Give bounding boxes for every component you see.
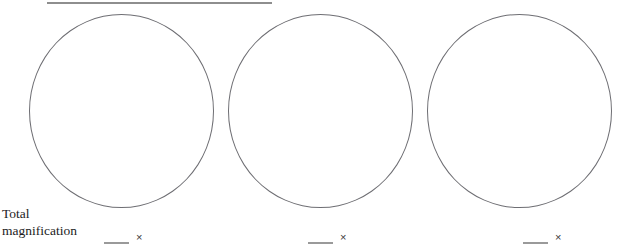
field-of-view-row bbox=[0, 0, 620, 215]
field-of-view-2[interactable] bbox=[228, 14, 413, 208]
times-symbol-icon-1: × bbox=[136, 232, 142, 243]
field-of-view-1[interactable] bbox=[29, 14, 214, 208]
label-line-1: Total bbox=[2, 205, 102, 222]
magnification-answer-3: × bbox=[523, 229, 561, 246]
worksheet-canvas: Total magnification × × × bbox=[0, 0, 620, 246]
label-line-2: magnification bbox=[2, 222, 102, 239]
field-of-view-3[interactable] bbox=[427, 14, 612, 208]
times-symbol-icon-2: × bbox=[340, 232, 346, 243]
total-magnification-label: Total magnification bbox=[2, 205, 102, 239]
magnification-blank-input-1[interactable] bbox=[104, 231, 129, 244]
magnification-blank-input-2[interactable] bbox=[308, 231, 333, 244]
magnification-answer-2: × bbox=[308, 229, 346, 246]
times-symbol-icon-3: × bbox=[555, 232, 561, 243]
magnification-blank-input-3[interactable] bbox=[523, 231, 548, 244]
magnification-answer-1: × bbox=[104, 229, 142, 246]
